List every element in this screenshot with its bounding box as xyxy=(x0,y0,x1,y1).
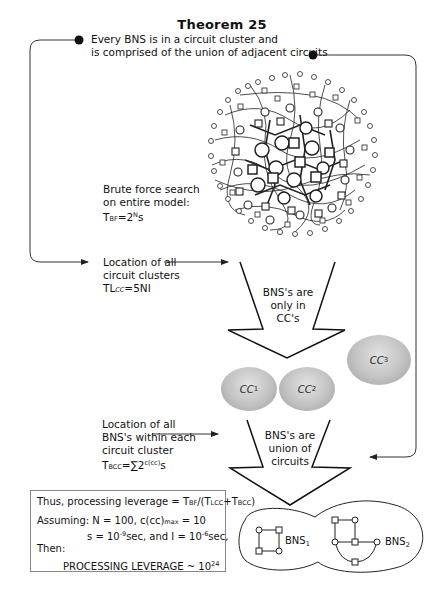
cluster-location-line-2: circuit clusters xyxy=(103,269,180,282)
then-label: Then: xyxy=(37,543,219,555)
connector-dot-left xyxy=(75,36,84,45)
arrow-1-label-line-2: only in xyxy=(256,299,320,312)
bns-1-label: BNS1 xyxy=(285,534,310,551)
processing-leverage-box: Thus, processing leverage = TBF/(TLCC+TB… xyxy=(30,490,226,572)
cluster-location-text: Location of all circuit clusters TLCC=5N… xyxy=(103,256,180,297)
circuit-cluster-3: CC3 xyxy=(347,335,411,385)
bns-location-line-1: Location of all xyxy=(102,418,196,431)
circuit-cluster-2: CC2 xyxy=(279,367,335,411)
assumption-line-1: Assuming: N = 100, c(cc)max = 10 xyxy=(37,515,219,528)
brute-force-line-1: Brute force search xyxy=(103,183,200,196)
arrow-2-label-line-2: union of xyxy=(258,442,322,455)
bns-location-text: Location of all BNS's within each circui… xyxy=(102,418,196,474)
arrow-2-label-line-1: BNS's are xyxy=(258,429,322,442)
left-connector xyxy=(30,36,88,263)
bns-location-formula: TBCC=∑2c(cc)s xyxy=(102,457,196,474)
bns-location-line-3: circuit cluster xyxy=(102,444,196,457)
brute-force-formula: TBF=2Ns xyxy=(103,209,200,226)
cluster-2-sub: 2 xyxy=(312,385,316,393)
cluster-location-formula: TLCC=5NI xyxy=(103,282,180,297)
cluster-1-label: CC xyxy=(240,384,254,395)
arrow-1-label-line-1: BNS's are xyxy=(256,286,320,299)
leverage-formula: Thus, processing leverage = TBF/(TLCC+TB… xyxy=(37,496,219,509)
connector-dot-right xyxy=(309,51,318,60)
arrow-2-label: BNS's are union of circuits xyxy=(258,429,322,468)
bns-2-label: BNS2 xyxy=(385,535,410,552)
leverage-result: PROCESSING LEVERAGE ~ 1024 xyxy=(37,558,219,573)
arrow-1-label-line-3: CC's xyxy=(256,312,320,325)
assumption-line-2: s = 10-9sec, and I = 10-6sec, xyxy=(37,528,219,543)
bns-location-line-2: BNS's within each xyxy=(102,431,196,444)
circuit-cluster-1: CC1 xyxy=(221,367,277,411)
cluster-3-sub: 3 xyxy=(384,356,388,364)
cluster-1-sub: 1 xyxy=(254,385,258,393)
circuit-network-ball xyxy=(208,66,378,237)
cluster-3-label: CC xyxy=(370,355,384,366)
arrow-1-label: BNS's are only in CC's xyxy=(256,286,320,325)
cluster-2-label: CC xyxy=(298,384,312,395)
brute-force-text: Brute force search on entire model: TBF=… xyxy=(103,183,200,226)
cluster-location-line-1: Location of all xyxy=(103,256,180,269)
arrow-2-label-line-3: circuits xyxy=(258,455,322,468)
brute-force-line-2: on entire model: xyxy=(103,196,200,209)
